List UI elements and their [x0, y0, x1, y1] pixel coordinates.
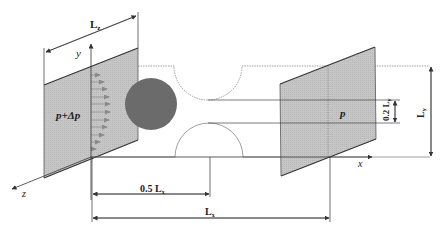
- y-axis-label: y: [75, 47, 81, 59]
- x-axis-label: x: [357, 158, 363, 169]
- z-axis-label: z: [21, 188, 26, 199]
- half-lx-label: 0.5 Lx: [140, 183, 165, 195]
- inlet-pressure-label: p+Δp: [55, 109, 81, 121]
- channel-flow-diagram: Lz y z x p+Δp p 0.5 Lx Lx 0.2 Ly Ly: [0, 0, 443, 230]
- ly-label: Ly: [415, 108, 427, 118]
- lz-label: Lz: [90, 18, 100, 32]
- cylinder: [125, 78, 177, 130]
- outlet-pressure-label: p: [339, 107, 346, 119]
- lx-label: Lx: [205, 206, 215, 218]
- gap-label: 0.2 Ly: [381, 98, 392, 121]
